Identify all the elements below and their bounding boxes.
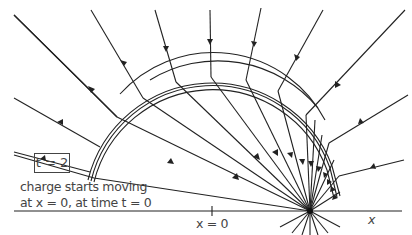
axis-label: x <box>368 212 375 227</box>
caption-line-1: charge starts moving <box>20 179 147 194</box>
origin-label: x = 0 <box>196 216 228 231</box>
radiation-shell <box>88 53 340 198</box>
time-label-box: t = 2 <box>34 153 70 173</box>
charge <box>307 208 313 214</box>
outer-arrowheads <box>40 39 376 169</box>
time-label: t = 2 <box>36 155 69 170</box>
caption-line-2: at x = 0, at time t = 0 <box>20 195 151 210</box>
outer-field-lines <box>14 8 408 176</box>
